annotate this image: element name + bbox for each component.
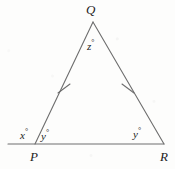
angle-label-interior-y-at-p: y° bbox=[41, 129, 49, 142]
vertex-label-q: Q bbox=[86, 3, 95, 16]
angle-label-apex-z: z° bbox=[87, 39, 94, 52]
geometry-figure: Q P R z° x° y° y° bbox=[0, 0, 175, 169]
congruence-tick-left-icon bbox=[58, 84, 70, 93]
vertex-label-p: P bbox=[30, 150, 38, 163]
degree-symbol-y-r: ° bbox=[138, 126, 141, 135]
degree-symbol-x: ° bbox=[25, 127, 28, 136]
degree-symbol-y-p: ° bbox=[46, 128, 49, 137]
triangle-diagram bbox=[0, 0, 175, 169]
angle-label-exterior-x: x° bbox=[20, 128, 28, 141]
degree-symbol-z: ° bbox=[91, 38, 94, 47]
side-qr bbox=[93, 22, 164, 144]
vertex-label-r: R bbox=[160, 150, 168, 163]
angle-label-interior-y-at-r: y° bbox=[133, 127, 141, 140]
side-pq bbox=[35, 22, 93, 144]
